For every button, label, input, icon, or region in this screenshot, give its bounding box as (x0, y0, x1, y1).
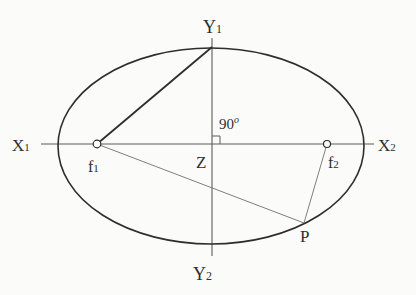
segment-f2-to-p (304, 144, 327, 223)
figure-container: Y1Y2X1X2f1f2ZP90o (0, 0, 416, 295)
label-angle-90: 90o (219, 114, 239, 132)
ellipse-diagram: Y1Y2X1X2f1f2ZP90o (0, 0, 416, 295)
focus-f1 (93, 140, 101, 148)
label-f2: f2 (328, 154, 339, 171)
ellipse-outline (58, 48, 364, 244)
segment-f1-to-top-vertex (97, 47, 212, 144)
label-x1: X1 (12, 136, 30, 155)
label-y1: Y1 (203, 17, 222, 37)
right-angle-mark (212, 136, 220, 144)
label-f1: f1 (88, 158, 99, 175)
label-y2: Y2 (193, 264, 212, 284)
focus-f2 (324, 141, 331, 148)
label-p: P (300, 227, 309, 246)
label-x2: X2 (378, 136, 396, 155)
label-z: Z (196, 153, 206, 172)
